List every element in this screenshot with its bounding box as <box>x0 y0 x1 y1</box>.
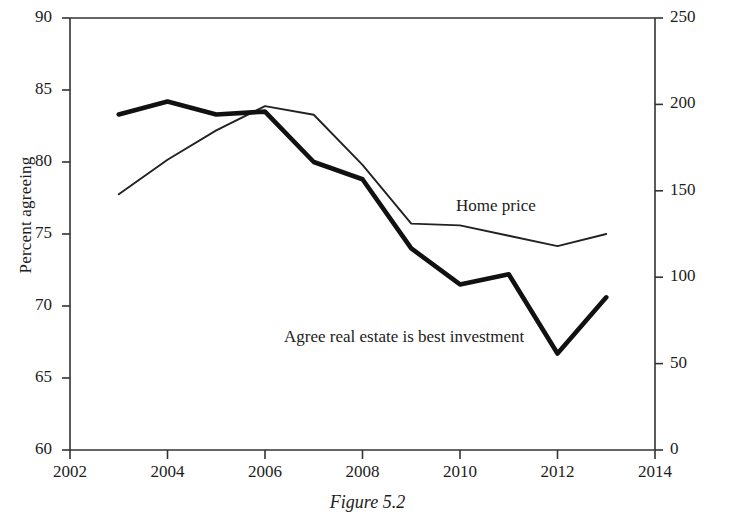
y-tick-right-0: 0 <box>670 439 716 459</box>
right-axis-ticks <box>655 18 663 450</box>
y-tick-left-90: 90 <box>6 7 52 27</box>
series-agree-real-estate <box>119 102 607 354</box>
chart-plot-area <box>0 0 735 532</box>
bottom-axis-ticks <box>70 450 655 459</box>
y-tick-left-65: 65 <box>6 367 52 387</box>
y-tick-left-85: 85 <box>6 79 52 99</box>
x-tick-2006: 2006 <box>235 462 295 482</box>
y-tick-left-70: 70 <box>6 295 52 315</box>
figure-caption: Figure 5.2 <box>0 492 735 513</box>
axis-frame <box>70 18 655 450</box>
x-tick-2002: 2002 <box>40 462 100 482</box>
y-tick-right-100: 100 <box>670 266 716 286</box>
y-tick-right-250: 250 <box>670 7 716 27</box>
x-tick-2012: 2012 <box>528 462 588 482</box>
x-tick-2014: 2014 <box>625 462 685 482</box>
y-tick-right-50: 50 <box>670 353 716 373</box>
x-tick-2004: 2004 <box>138 462 198 482</box>
y-tick-left-80: 80 <box>6 151 52 171</box>
x-tick-2010: 2010 <box>430 462 490 482</box>
x-tick-2008: 2008 <box>333 462 393 482</box>
y-tick-left-60: 60 <box>6 439 52 459</box>
series-label-home-price: Home price <box>456 196 536 216</box>
series-label-agree-real-estate: Agree real estate is best investment <box>284 327 524 347</box>
y-tick-left-75: 75 <box>6 223 52 243</box>
series-home-price <box>119 106 607 246</box>
y-axis-left-title: Percent agreeing <box>16 105 36 325</box>
y-tick-right-150: 150 <box>670 180 716 200</box>
y-tick-right-200: 200 <box>670 93 716 113</box>
left-axis-ticks <box>62 18 70 450</box>
figure-container: Percent agreeing Real S&P Case-Shiller H… <box>0 0 735 532</box>
